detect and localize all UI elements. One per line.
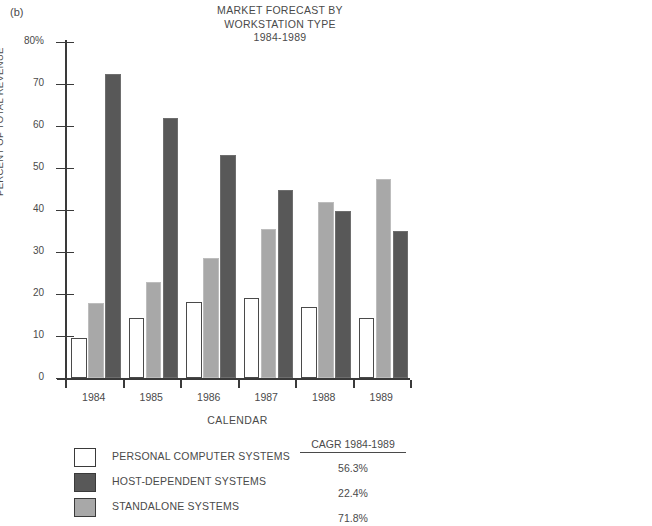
x-tick-label-1985: 1985	[121, 391, 181, 403]
x-tick-label-1988: 1988	[294, 391, 354, 403]
y-tick-inner-30	[67, 252, 74, 253]
y-tick-inner-40	[67, 210, 74, 211]
y-tick-10: 10	[56, 336, 65, 337]
y-tick-inner-60	[67, 126, 74, 127]
legend-swatch-pc	[74, 448, 96, 467]
x-tick	[238, 380, 240, 388]
y-tick-60: 60	[56, 126, 65, 127]
bar-host-1984	[105, 74, 121, 379]
y-tick-inner-20	[67, 294, 74, 295]
bar-standalone-1985	[146, 282, 162, 378]
chart-title-line-2: WORKSTATION TYPE	[0, 18, 560, 32]
x-tick-label-1986: 1986	[179, 391, 239, 403]
bar-standalone-1988	[318, 202, 334, 378]
x-tick-label-1989: 1989	[351, 391, 411, 403]
bar-standalone-1984	[88, 303, 104, 378]
y-tick-20: 20	[56, 294, 65, 295]
legend-swatch-host	[74, 473, 96, 492]
y-tick-label: 20	[33, 287, 44, 298]
bar-pc-1989	[359, 318, 375, 378]
bar-standalone-1987	[261, 229, 277, 378]
plot-area: 80%706050403020100	[65, 42, 410, 378]
bar-pc-1985	[129, 318, 145, 378]
bar-standalone-1986	[203, 258, 219, 378]
y-tick-inner-10	[67, 336, 74, 337]
y-tick-30: 30	[56, 252, 65, 253]
x-tick	[180, 380, 182, 388]
y-tick-label: 70	[33, 77, 44, 88]
bar-host-1989	[393, 231, 409, 378]
x-tick	[295, 380, 297, 388]
bar-pc-1984	[71, 338, 87, 378]
bar-standalone-1989	[376, 179, 392, 379]
y-tick-label: 10	[33, 329, 44, 340]
bar-pc-1988	[301, 307, 317, 378]
bar-host-1988	[335, 211, 351, 378]
y-tick-inner-80	[67, 42, 74, 43]
y-tick-label: 50	[33, 161, 44, 172]
legend-swatch-standalone	[74, 498, 96, 517]
legend-label: HOST-DEPENDENT SYSTEMS	[112, 475, 266, 487]
y-tick-70: 70	[56, 84, 65, 85]
cagr-column: CAGR 1984-1989 56.3%22.4%71.8%	[300, 438, 406, 526]
y-axis-title: PERCENT OF TOTAL REVENUE	[0, 47, 5, 196]
x-tick	[65, 380, 67, 388]
legend-label: PERSONAL COMPUTER SYSTEMS	[112, 450, 290, 462]
x-tick	[353, 380, 355, 388]
x-tick	[410, 380, 412, 388]
cagr-value: 22.4%	[300, 478, 406, 503]
y-tick-0: 0	[56, 378, 65, 379]
y-tick-80: 80%	[56, 42, 65, 43]
y-tick-label: 60	[33, 119, 44, 130]
x-tick-label-1987: 1987	[236, 391, 296, 403]
y-tick-label: 80%	[24, 35, 44, 46]
x-tick-label-1984: 1984	[64, 391, 124, 403]
y-tick-40: 40	[56, 210, 65, 211]
bar-pc-1987	[244, 298, 260, 378]
bar-pc-1986	[186, 302, 202, 378]
y-tick-inner-0	[67, 378, 74, 379]
y-tick-inner-50	[67, 168, 74, 169]
cagr-value: 56.3%	[300, 453, 406, 478]
bar-host-1987	[278, 190, 294, 378]
chart-title: MARKET FORECAST BY WORKSTATION TYPE 1984…	[0, 4, 560, 45]
cagr-values: 56.3%22.4%71.8%	[300, 453, 406, 526]
legend-label: STANDALONE SYSTEMS	[112, 500, 239, 512]
bar-host-1986	[220, 155, 236, 378]
y-tick-label: 0	[38, 371, 44, 382]
y-tick-50: 50	[56, 168, 65, 169]
x-axis-line	[57, 378, 410, 380]
x-axis-title: CALENDAR	[65, 414, 410, 426]
y-tick-inner-70	[67, 84, 74, 85]
chart-title-line-1: MARKET FORECAST BY	[0, 4, 560, 18]
cagr-header: CAGR 1984-1989	[300, 438, 406, 453]
bar-host-1985	[163, 118, 179, 378]
cagr-value: 71.8%	[300, 503, 406, 526]
x-tick	[123, 380, 125, 388]
y-tick-label: 40	[33, 203, 44, 214]
y-tick-label: 30	[33, 245, 44, 256]
